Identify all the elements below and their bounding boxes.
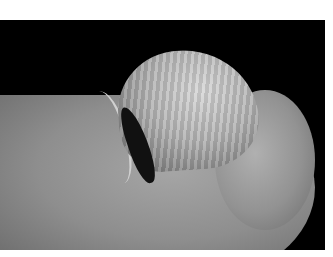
clinical-photo [0,20,325,250]
